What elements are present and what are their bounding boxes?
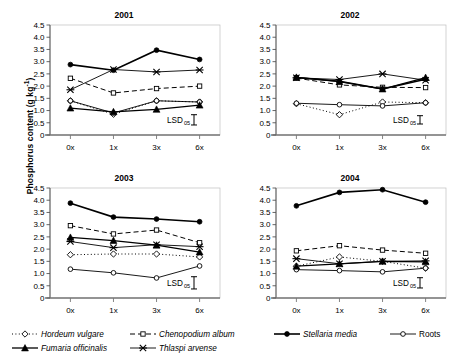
data-point-roots	[380, 270, 385, 275]
legend-symbol-chenopodium_album	[141, 332, 145, 336]
legend-item-thlaspi_arvense[interactable]: Thlaspi arvense	[128, 342, 217, 354]
legend-item-chenopodium_album[interactable]: Chenopodium album	[128, 328, 235, 340]
data-point-chenopodium_album	[111, 232, 115, 236]
data-point-chenopodium_album	[423, 251, 427, 255]
data-point-stellaria_media	[337, 190, 342, 195]
x-tick-label: 3x	[378, 143, 386, 152]
data-point-roots	[337, 268, 342, 273]
plot-area-2004: 00.51.01.52.02.53.03.54.04.50x1x3x6xLSD0…	[248, 182, 452, 328]
panel-2004: 2004 00.51.01.52.02.53.03.54.04.50x1x3x6…	[248, 173, 452, 328]
data-point-roots	[423, 266, 428, 271]
y-tick-label: 3.0	[259, 57, 271, 66]
data-point-chenopodium_album	[423, 85, 427, 89]
legend-item-roots[interactable]: Roots	[388, 328, 440, 340]
lsd-subscript: 05	[184, 120, 190, 126]
data-point-stellaria_media	[154, 217, 159, 222]
data-point-chenopodium_album	[68, 223, 72, 227]
legend-label: Roots	[418, 330, 440, 339]
x-tick-label: 6x	[421, 306, 429, 315]
data-point-roots	[68, 267, 73, 272]
legend-label: Chenopodium album	[158, 330, 235, 339]
x-tick-label: 6x	[195, 306, 203, 315]
y-tick-label: 1.5	[33, 94, 45, 103]
y-tick-label: 0	[40, 131, 45, 140]
y-tick-label: 4.0	[33, 33, 45, 42]
y-tick-label: 3.5	[33, 45, 45, 54]
data-point-roots	[154, 98, 159, 103]
lsd-label: LSD	[393, 279, 409, 288]
x-tick-label: 1x	[109, 143, 117, 152]
x-tick-label: 6x	[195, 143, 203, 152]
y-tick-label: 1.0	[33, 269, 45, 278]
data-point-stellaria_media	[294, 203, 299, 208]
data-point-stellaria_media	[380, 187, 385, 192]
y-tick-label: 0	[266, 294, 271, 303]
legend-symbol-roots	[401, 332, 406, 337]
legend-label: Hordeum vulgare	[40, 330, 104, 339]
legend: Hordeum vulgareChenopodium albumStellari…	[10, 327, 452, 355]
y-tick-label: 0.5	[33, 119, 45, 128]
y-tick-label: 4.5	[33, 184, 45, 193]
y-tick-label: 1.5	[259, 94, 271, 103]
legend-label: Thlaspi arvense	[158, 344, 217, 353]
panel-2001: 2001 00.51.01.52.02.53.03.54.04.50x1x3x6…	[22, 10, 226, 165]
y-tick-label: 4.5	[259, 184, 271, 193]
data-point-chenopodium_album	[294, 249, 298, 253]
data-point-stellaria_media	[197, 219, 202, 224]
y-tick-label: 3.5	[33, 208, 45, 217]
y-tick-label: 2.0	[33, 82, 45, 91]
data-point-roots	[154, 276, 159, 281]
data-point-roots	[68, 98, 73, 103]
legend-item-stellaria_media[interactable]: Stellaria media	[272, 328, 357, 340]
data-point-stellaria_media	[68, 201, 73, 206]
y-tick-label: 1.5	[33, 257, 45, 266]
panel-2003: 2003 00.51.01.52.02.53.03.54.04.50x1x3x6…	[22, 173, 226, 328]
y-tick-label: 2.5	[259, 70, 271, 79]
data-point-stellaria_media	[197, 57, 202, 62]
y-tick-label: 2.0	[33, 245, 45, 254]
y-tick-label: 2.5	[33, 233, 45, 242]
y-tick-label: 3.5	[259, 208, 271, 217]
y-tick-label: 1.5	[259, 257, 271, 266]
y-tick-label: 0.5	[33, 282, 45, 291]
y-tick-label: 3.0	[33, 220, 45, 229]
y-tick-label: 0	[266, 131, 271, 140]
data-point-chenopodium_album	[197, 241, 201, 245]
x-tick-label: 1x	[335, 143, 343, 152]
x-tick-label: 0x	[292, 306, 300, 315]
legend-marker-stellaria_media	[272, 328, 302, 340]
legend-item-fumaria_officinalis[interactable]: Fumaria officinalis	[10, 342, 107, 354]
y-tick-label: 0.5	[259, 282, 271, 291]
data-point-chenopodium_album	[380, 248, 384, 252]
x-tick-label: 1x	[109, 306, 117, 315]
data-point-chenopodium_album	[337, 244, 341, 248]
data-point-roots	[337, 102, 342, 107]
legend-label: Stellaria media	[302, 330, 357, 339]
y-tick-label: 1.0	[259, 106, 271, 115]
data-point-chenopodium_album	[68, 76, 72, 80]
y-tick-label: 4.0	[33, 196, 45, 205]
data-point-stellaria_media	[423, 200, 428, 205]
y-tick-label: 0.5	[259, 119, 271, 128]
lsd-label: LSD	[393, 116, 409, 125]
y-tick-label: 3.0	[33, 57, 45, 66]
y-tick-label: 1.0	[33, 106, 45, 115]
legend-symbol-hordeum_vulgare	[22, 331, 28, 337]
legend-label: Fumaria officinalis	[40, 344, 107, 353]
y-tick-label: 1.0	[259, 269, 271, 278]
y-tick-label: 3.5	[259, 45, 271, 54]
x-tick-label: 3x	[378, 306, 386, 315]
data-point-roots	[423, 100, 428, 105]
plot-area-2001: 00.51.01.52.02.53.03.54.04.50x1x3x6xLSD0…	[22, 19, 226, 165]
legend-marker-thlaspi_arvense	[128, 342, 158, 354]
legend-symbol-stellaria_media	[285, 332, 290, 337]
legend-row: Fumaria officinalisThlaspi arvense	[10, 341, 452, 355]
data-point-chenopodium_album	[197, 84, 201, 88]
x-tick-label: 6x	[421, 143, 429, 152]
data-point-roots	[380, 104, 385, 109]
panel-2002: 2002 00.51.01.52.02.53.03.54.04.50x1x3x6…	[248, 10, 452, 165]
x-tick-label: 0x	[66, 143, 74, 152]
legend-item-hordeum_vulgare[interactable]: Hordeum vulgare	[10, 328, 104, 340]
figure-root: Phosphorus content (g kg-1) 2001 00.51.0…	[0, 0, 452, 358]
data-point-roots	[197, 264, 202, 269]
